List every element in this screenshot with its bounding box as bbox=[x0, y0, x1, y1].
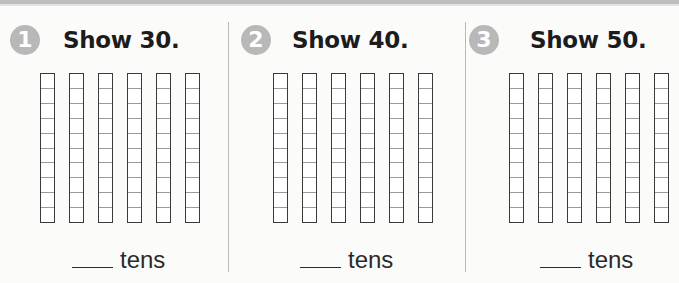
unit-cell bbox=[568, 208, 581, 222]
tens-rod[interactable] bbox=[538, 73, 553, 223]
unit-cell bbox=[539, 89, 552, 104]
unit-cell bbox=[626, 104, 639, 119]
unit-cell bbox=[655, 178, 668, 193]
unit-cell bbox=[626, 149, 639, 164]
tens-rod[interactable] bbox=[625, 73, 640, 223]
unit-cell bbox=[597, 163, 610, 178]
problem-3: 3 Show 50. tens bbox=[0, 0, 679, 283]
tens-rod[interactable] bbox=[567, 73, 582, 223]
problem-number-badge: 3 bbox=[469, 25, 499, 55]
unit-cell bbox=[510, 193, 523, 208]
unit-cell bbox=[510, 178, 523, 193]
unit-cell bbox=[568, 89, 581, 104]
unit-cell bbox=[539, 74, 552, 89]
unit-cell bbox=[597, 119, 610, 134]
answer-blank-input[interactable] bbox=[540, 247, 581, 268]
unit-cell bbox=[626, 208, 639, 222]
unit-cell bbox=[597, 89, 610, 104]
unit-cell bbox=[597, 149, 610, 164]
unit-cell bbox=[568, 193, 581, 208]
unit-cell bbox=[568, 149, 581, 164]
unit-cell bbox=[539, 193, 552, 208]
unit-cell bbox=[568, 134, 581, 149]
unit-cell bbox=[510, 89, 523, 104]
unit-cell bbox=[539, 104, 552, 119]
unit-cell bbox=[655, 149, 668, 164]
unit-cell bbox=[510, 163, 523, 178]
unit-cell bbox=[655, 134, 668, 149]
unit-cell bbox=[626, 163, 639, 178]
unit-cell bbox=[568, 163, 581, 178]
unit-cell bbox=[597, 208, 610, 222]
unit-cell bbox=[568, 178, 581, 193]
unit-cell bbox=[539, 208, 552, 222]
unit-cell bbox=[539, 149, 552, 164]
unit-cell bbox=[655, 104, 668, 119]
unit-cell bbox=[626, 119, 639, 134]
unit-cell bbox=[655, 208, 668, 222]
unit-label: tens bbox=[588, 246, 633, 273]
unit-cell bbox=[568, 104, 581, 119]
unit-cell bbox=[597, 178, 610, 193]
unit-cell bbox=[626, 89, 639, 104]
unit-cell bbox=[510, 208, 523, 222]
unit-cell bbox=[510, 134, 523, 149]
problem-title: Show 50. bbox=[530, 27, 646, 53]
unit-cell bbox=[655, 193, 668, 208]
unit-cell bbox=[597, 74, 610, 89]
unit-cell bbox=[626, 134, 639, 149]
unit-cell bbox=[568, 74, 581, 89]
unit-cell bbox=[539, 119, 552, 134]
unit-cell bbox=[655, 74, 668, 89]
unit-cell bbox=[510, 119, 523, 134]
unit-cell bbox=[597, 134, 610, 149]
unit-cell bbox=[510, 149, 523, 164]
unit-cell bbox=[626, 193, 639, 208]
unit-cell bbox=[626, 178, 639, 193]
tens-rod[interactable] bbox=[654, 73, 669, 223]
unit-cell bbox=[510, 74, 523, 89]
unit-cell bbox=[539, 163, 552, 178]
unit-cell bbox=[655, 89, 668, 104]
answer-line: tens bbox=[540, 246, 633, 274]
unit-cell bbox=[539, 178, 552, 193]
unit-cell bbox=[655, 163, 668, 178]
unit-cell bbox=[626, 74, 639, 89]
tens-rod[interactable] bbox=[596, 73, 611, 223]
unit-cell bbox=[655, 119, 668, 134]
unit-cell bbox=[510, 104, 523, 119]
unit-cell bbox=[568, 119, 581, 134]
unit-cell bbox=[597, 193, 610, 208]
unit-cell bbox=[597, 104, 610, 119]
tens-rod[interactable] bbox=[509, 73, 524, 223]
unit-cell bbox=[539, 134, 552, 149]
